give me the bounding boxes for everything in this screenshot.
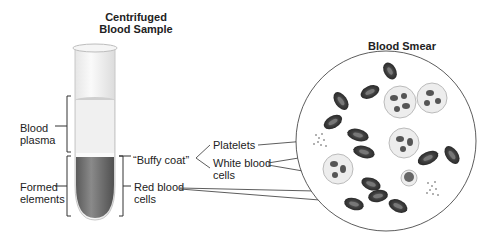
wbc: [323, 154, 353, 184]
wbc: [389, 128, 419, 158]
smear-circle: [296, 51, 476, 231]
wbc: [384, 86, 416, 118]
rbc-layer: [76, 157, 114, 218]
buffy-coat-layer: [76, 153, 114, 157]
plasma-layer: [76, 100, 114, 153]
diagram-canvas: [0, 0, 489, 238]
wbc: [417, 83, 447, 113]
test-tube: [73, 44, 117, 220]
wbc: [401, 170, 417, 186]
